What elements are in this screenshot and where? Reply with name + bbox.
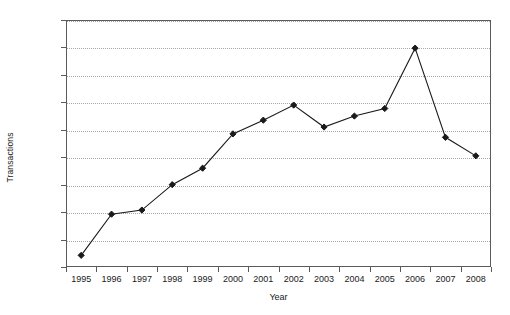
- y-axis-title: Transactions: [0, 0, 20, 315]
- x-tick-mark: [491, 267, 492, 272]
- y-tick-mark: [61, 157, 66, 158]
- gridline: [67, 158, 490, 159]
- x-tick-mark: [157, 267, 158, 272]
- x-tick-mark: [127, 267, 128, 272]
- x-tick-mark: [370, 267, 371, 272]
- y-tick-mark: [61, 212, 66, 213]
- gridline: [67, 131, 490, 132]
- y-tick-mark: [61, 47, 66, 48]
- x-tick-mark: [187, 267, 188, 272]
- y-tick-mark: [61, 75, 66, 76]
- x-tick-mark: [218, 267, 219, 272]
- x-tick-mark: [96, 267, 97, 272]
- x-tick-mark: [400, 267, 401, 272]
- y-tick-mark: [61, 130, 66, 131]
- gridline: [67, 48, 490, 49]
- x-tick-mark: [279, 267, 280, 272]
- y-tick-mark: [61, 185, 66, 186]
- gridline: [67, 213, 490, 214]
- x-axis-title: Year: [66, 292, 491, 302]
- line-chart: Transactions 02 0004 0006 0008 00010 000…: [0, 0, 510, 315]
- gridline: [67, 186, 490, 187]
- x-tick-mark: [339, 267, 340, 272]
- y-tick-mark: [61, 20, 66, 21]
- gridline: [67, 103, 490, 104]
- gridline: [67, 76, 490, 77]
- x-tick-mark: [248, 267, 249, 272]
- x-tick-mark: [430, 267, 431, 272]
- y-tick-mark: [61, 240, 66, 241]
- x-tick-label: 2008: [453, 275, 499, 284]
- y-tick-mark: [61, 102, 66, 103]
- plot-area: [66, 20, 491, 267]
- x-tick-mark: [66, 267, 67, 272]
- gridline: [67, 241, 490, 242]
- x-tick-mark: [461, 267, 462, 272]
- x-tick-mark: [309, 267, 310, 272]
- gridline: [67, 21, 490, 22]
